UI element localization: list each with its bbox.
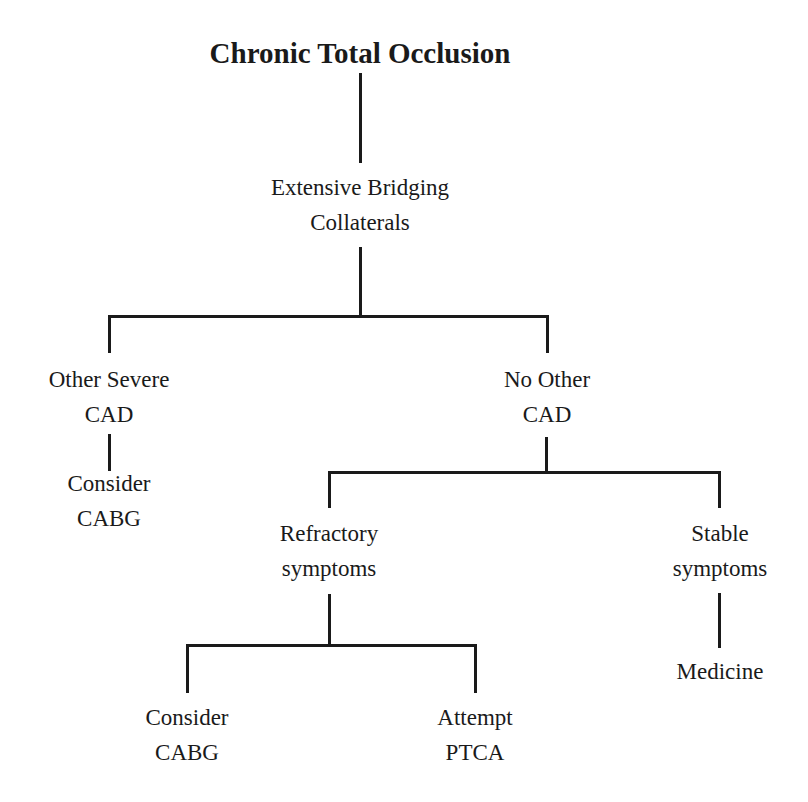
connector-collaterals-stem — [359, 247, 362, 317]
node-text: PTCA — [437, 735, 512, 770]
node-consider-cabg-2: Consider CABG — [145, 700, 228, 770]
connector-to-other-severe-cad — [108, 315, 111, 353]
node-extensive-bridging-collaterals: Extensive Bridging Collaterals — [271, 170, 449, 240]
node-attempt-ptca: Attempt PTCA — [437, 700, 512, 770]
connector-refractory-branch — [186, 644, 477, 647]
node-no-other-cad: No Other CAD — [504, 362, 590, 432]
node-other-severe-cad: Other Severe CAD — [49, 362, 170, 432]
node-medicine: Medicine — [677, 654, 764, 689]
node-consider-cabg-1: Consider CABG — [67, 466, 150, 536]
node-text: symptoms — [280, 551, 378, 586]
node-text: CAD — [49, 397, 170, 432]
node-text: Consider — [145, 700, 228, 735]
node-stable-symptoms: Stable symptoms — [673, 516, 768, 586]
connector-to-stable — [718, 471, 721, 508]
node-text: Consider — [67, 466, 150, 501]
node-text: CABG — [67, 501, 150, 536]
connector-no-other-cad-stem — [545, 437, 548, 473]
node-text: Collaterals — [271, 205, 449, 240]
connector-refractory-stem — [328, 594, 331, 646]
node-text: Stable — [673, 516, 768, 551]
node-text: CABG — [145, 735, 228, 770]
connector-root-collaterals — [359, 73, 362, 163]
node-text: Attempt — [437, 700, 512, 735]
node-text: symptoms — [673, 551, 768, 586]
node-text: CAD — [504, 397, 590, 432]
connector-to-refractory — [328, 471, 331, 508]
connector-to-attempt-ptca — [474, 644, 477, 693]
connector-to-consider-cabg-2 — [186, 644, 189, 693]
connector-collaterals-branch — [108, 315, 549, 318]
node-title-text: Chronic Total Occlusion — [210, 36, 511, 70]
node-refractory-symptoms: Refractory symptoms — [280, 516, 378, 586]
node-text: Other Severe — [49, 362, 170, 397]
connector-stable-medicine — [718, 593, 721, 648]
node-text: No Other — [504, 362, 590, 397]
node-chronic-total-occlusion: Chronic Total Occlusion — [210, 36, 511, 70]
connector-no-other-cad-branch — [328, 471, 721, 474]
node-text: Extensive Bridging — [271, 170, 449, 205]
node-text: Refractory — [280, 516, 378, 551]
node-text: Medicine — [677, 654, 764, 689]
connector-to-no-other-cad — [546, 315, 549, 353]
